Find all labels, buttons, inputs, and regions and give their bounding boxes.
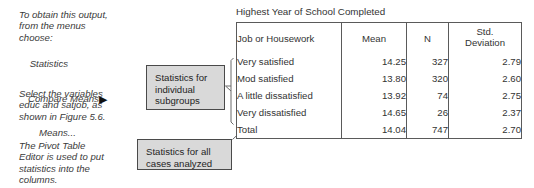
cell-label: Very satisfied [237,53,342,70]
cell-mean: 14.25 [342,53,407,70]
cell-n: 74 [407,87,449,104]
cell-label: A little dissatisfied [237,87,342,104]
cell-label: Very dissatisfied [237,104,342,121]
table-row: Very dissatisfied 14.65 26 2.37 [237,104,522,121]
cell-n: 26 [407,104,449,121]
cell-mean: 13.80 [342,70,407,87]
table-row: Mod satisfied 13.80 320 2.60 [237,70,522,87]
table-row-total: Total 14.04 747 2.70 [237,121,522,139]
cell-sd: 2.70 [449,121,522,139]
cell-sd: 2.79 [449,53,522,70]
column-header-mean: Mean [342,23,407,54]
brace-subgroup-rows [231,58,234,125]
cell-sd: 2.37 [449,104,522,121]
cell-label: Mod satisfied [237,70,342,87]
column-header-job-or-housework: Job or Housework [237,23,342,54]
statistics-table: Job or Housework Mean N Std. Deviation V… [236,22,522,139]
table-row: A little dissatisfied 13.92 74 2.75 [237,87,522,104]
cell-mean: 14.65 [342,104,407,121]
cell-n: 327 [407,53,449,70]
cell-sd: 2.60 [449,70,522,87]
cell-mean: 13.92 [342,87,407,104]
cell-sd: 2.75 [449,87,522,104]
table-head: Job or Housework Mean N Std. Deviation [237,23,522,54]
leader-subgroups-diagonal [226,86,232,91]
cell-label: Total [237,121,342,139]
column-header-std-deviation-line2: Deviation [449,38,521,49]
table-header-row: Job or Housework Mean N Std. Deviation [237,23,522,54]
table-title: Highest Year of School Completed [236,6,385,17]
cell-n: 747 [407,121,449,139]
statistics-table-wrapper: Job or Housework Mean N Std. Deviation V… [236,22,522,139]
cell-n: 320 [407,70,449,87]
column-header-n: N [407,23,449,54]
table-row: Very satisfied 14.25 327 2.79 [237,53,522,70]
column-header-std-deviation: Std. Deviation [449,23,522,54]
cell-mean: 14.04 [342,121,407,139]
table-body: Very satisfied 14.25 327 2.79 Mod satisf… [237,53,522,139]
figure-root: To obtain this output, from the menus ch… [0,0,534,188]
